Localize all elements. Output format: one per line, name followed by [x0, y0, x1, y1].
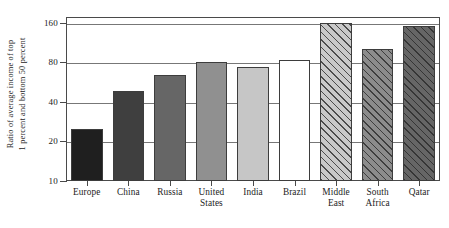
- y-tick-label-80: 80: [49, 57, 58, 67]
- bar-europe: [71, 129, 103, 181]
- x-tick-1: [128, 181, 129, 186]
- y-tick-20: [60, 141, 67, 142]
- y-tick-label-160: 160: [44, 18, 58, 28]
- bar-south-africa: [362, 49, 394, 181]
- bar-india: [237, 67, 269, 181]
- bar-brazil: [279, 60, 311, 181]
- x-tick-6: [336, 181, 337, 186]
- y-axis-title-line-2: 1 percent and bottom 50 percent: [17, 38, 29, 151]
- x-tick-0: [87, 181, 88, 186]
- x-axis-label-qatar: Qatar: [389, 187, 449, 198]
- y-axis-title: Ratio of average income of top 1 percent…: [0, 0, 34, 190]
- y-tick-label-20: 20: [49, 136, 58, 146]
- x-tick-3: [211, 181, 212, 186]
- y-tick-label-10: 10: [49, 176, 58, 186]
- y-axis-title-line-1: Ratio of average income of top: [5, 40, 17, 148]
- x-tick-7: [378, 181, 379, 186]
- y-tick-80: [60, 62, 67, 63]
- y-tick-10: [60, 181, 67, 182]
- bar-middle-east: [320, 23, 352, 181]
- x-axis-label-line: Qatar: [389, 187, 449, 198]
- x-axis-labels: EuropeChinaRussiaUnitedStatesIndiaBrazil…: [66, 187, 440, 227]
- bar-russia: [154, 75, 186, 181]
- x-axis-label-line: Africa: [348, 198, 408, 209]
- y-tick-label-40: 40: [49, 97, 58, 107]
- x-axis-label-line: States: [182, 198, 242, 209]
- y-tick-160: [60, 23, 67, 24]
- bar-china: [113, 91, 145, 181]
- x-tick-2: [170, 181, 171, 186]
- x-tick-5: [295, 181, 296, 186]
- x-tick-4: [253, 181, 254, 186]
- bar-united-states: [196, 62, 228, 181]
- bar-chart-figure: Ratio of average income of top 1 percent…: [0, 0, 449, 228]
- y-tick-40: [60, 102, 67, 103]
- bar-qatar: [403, 26, 435, 181]
- bar-series: [66, 17, 440, 181]
- x-tick-8: [419, 181, 420, 186]
